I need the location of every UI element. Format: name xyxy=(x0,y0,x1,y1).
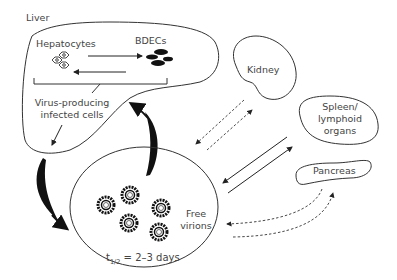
half-life-value: = 2–3 days xyxy=(120,252,179,263)
arrow-kidney-to-virions xyxy=(196,100,244,144)
spleen-line1: Spleen/ xyxy=(310,101,370,113)
half-life-label: t1/2 = 2–3 days xyxy=(106,252,180,268)
arrow-virions-to-spleen xyxy=(228,147,292,193)
spleen-label: Spleen/ lymphoid organs xyxy=(310,101,370,137)
bdecs-icon xyxy=(146,49,173,66)
spleen-line3: organs xyxy=(310,125,370,137)
free-virions-line1: Free xyxy=(176,208,216,220)
arrow-virions-to-liver xyxy=(145,112,158,176)
arrow-virions-to-kidney xyxy=(207,110,252,150)
free-virions-outline xyxy=(70,147,218,267)
infected-cells-line1: Virus-producing xyxy=(22,97,122,109)
kidney-label: Kidney xyxy=(247,64,279,76)
pancreas-label: Pancreas xyxy=(313,165,356,177)
bdecs-label: BDECs xyxy=(135,35,166,47)
arrow-pancreas-to-virions xyxy=(227,189,322,224)
hepatocytes-label: Hepatocytes xyxy=(36,38,96,50)
liver-label: Liver xyxy=(26,12,49,24)
infected-cells-bracket xyxy=(34,78,167,84)
arrow-spleen-to-virions xyxy=(223,137,287,183)
arrow-liver-to-virions xyxy=(37,158,58,220)
free-virions-line2: virions xyxy=(176,220,216,232)
arrow-infected-to-outline xyxy=(52,125,62,145)
arrow-virions-to-pancreas xyxy=(233,193,333,237)
infected-cells-line2: infected cells xyxy=(22,109,122,121)
virions-icon xyxy=(98,187,169,240)
hepatocytes-icon xyxy=(52,52,69,68)
half-life-subscript: 1/2 xyxy=(110,258,120,266)
spleen-line2: lymphoid xyxy=(310,113,370,125)
free-virions-label: Free virions xyxy=(176,208,216,232)
infected-cells-label: Virus-producing infected cells xyxy=(22,97,122,121)
